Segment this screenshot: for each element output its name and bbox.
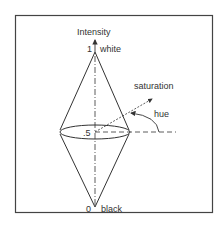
bottom-name-label: black (101, 204, 123, 214)
hsi-double-cone-diagram: Intensity 1 white saturation hue .5 0 bl… (0, 0, 221, 231)
upper-cone-left (60, 52, 95, 130)
lower-cone-right (95, 134, 129, 207)
saturation-label: saturation (134, 81, 174, 91)
intensity-axis-label: Intensity (77, 27, 111, 37)
hue-label: hue (154, 109, 169, 119)
bottom-value-label: 0 (86, 204, 91, 214)
upper-cone-right (95, 52, 129, 130)
lower-cone-left (60, 134, 95, 207)
top-value-label: 1 (87, 44, 92, 54)
mid-value-label: .5 (83, 128, 91, 138)
top-name-label: white (99, 44, 121, 54)
